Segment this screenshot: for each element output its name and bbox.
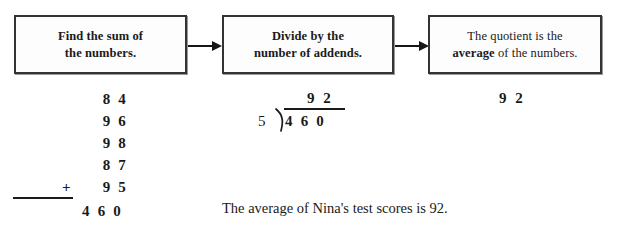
addend-row-last: + 9 5 xyxy=(50,176,180,198)
arrow-shaft xyxy=(188,45,214,47)
flow-step-box-divide: Divide by the number of addends. xyxy=(222,15,394,74)
arrow-shaft xyxy=(395,45,421,47)
addend-value: 8 4 xyxy=(103,91,128,107)
division-quotient: 9 2 xyxy=(284,88,356,108)
flow-step-text: Find the sum of the numbers. xyxy=(52,28,149,62)
division-dividend: 4 6 0 xyxy=(285,110,326,132)
addend-value: 9 5 xyxy=(103,179,128,195)
long-division-problem: 9 2 5 4 6 0 xyxy=(258,88,388,138)
addition-sum: 4 6 0 xyxy=(50,200,180,222)
flow-step-line-1: Divide by the xyxy=(272,29,344,43)
addition-problem: 8 4 9 6 9 8 8 7 + 9 5 xyxy=(50,88,180,198)
addend-row: 9 8 xyxy=(50,132,180,154)
arrow-right-icon-2 xyxy=(395,41,429,52)
addend-value: 9 6 xyxy=(103,113,128,129)
flow-step-line-2-suffix: of the numbers. xyxy=(495,46,578,60)
flow-step-line-1: The quotient is the xyxy=(467,29,562,43)
flow-step-line-2: number of addends. xyxy=(254,46,362,60)
arrow-right-icon-1 xyxy=(188,41,222,52)
addend-row: 8 7 xyxy=(50,154,180,176)
flow-step-box-find-sum: Find the sum of the numbers. xyxy=(14,15,187,74)
division-divisor: 5 xyxy=(258,110,266,132)
conclusion-sentence: The average of Nina's test scores is 92. xyxy=(222,198,448,218)
flow-step-text: The quotient is the average of the numbe… xyxy=(446,28,583,62)
flow-step-emphasis-average: average xyxy=(452,46,494,60)
addition-rule-line xyxy=(13,197,73,199)
flow-step-text: Divide by the number of addends. xyxy=(248,28,368,62)
addend-row: 8 4 xyxy=(50,88,180,110)
flow-step-box-quotient-average: The quotient is the average of the numbe… xyxy=(428,15,602,74)
final-average-value: 9 2 xyxy=(462,88,562,108)
addend-value: 9 8 xyxy=(103,135,128,151)
flow-step-line-2: the numbers. xyxy=(65,46,136,60)
addend-row: 9 6 xyxy=(50,110,180,132)
arrow-head xyxy=(212,41,222,51)
plus-operator: + xyxy=(62,176,71,198)
flow-step-line-1: Find the sum of xyxy=(58,29,143,43)
addend-value: 8 7 xyxy=(103,157,128,173)
